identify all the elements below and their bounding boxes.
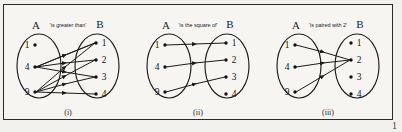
mapping-arrow [296,60,350,92]
set-a-label: A [32,19,40,31]
mapping-arrow [166,60,225,67]
b-element-label: 4 [102,89,107,99]
b-element-label: 1 [357,38,362,48]
b-element-dot [349,41,352,44]
set-a-ellipse [147,34,191,98]
b-element-label: 2 [102,55,107,65]
a-element-dot [33,43,36,46]
a-element-label: 9 [155,87,160,97]
b-element-label: 2 [357,55,362,65]
b-element-label: 4 [357,89,362,99]
mapping-arrow [296,45,350,60]
relation-diagram-iii: A B 'is paired with 2' 1 4 9 1 2 3 4 [263,4,393,120]
a-element-label: 1 [285,40,290,50]
panel-caption: (i) [64,108,72,117]
mapping-arrow [36,43,95,92]
relation-label: 'is the square of' [179,22,218,28]
b-element-dot [349,75,352,78]
a-element-label: 9 [285,87,290,97]
set-a-label: A [162,19,170,31]
a-element-label: 9 [25,87,30,97]
mapping-arrow [166,43,225,45]
relation-label: 'is greater than' [50,22,87,28]
set-a-label: A [292,19,300,31]
mapping-arrow [296,60,350,67]
b-element-label: 3 [102,72,107,82]
relation-diagram-ii: A B 'is the square of' 1 4 9 1 2 3 4 [133,4,263,120]
b-element-dot [224,92,227,95]
a-element-label: 1 [155,40,160,50]
set-b-label: B [96,18,103,30]
panel-caption: (iii) [322,108,334,117]
mapping-arrow [166,77,225,92]
b-element-label: 4 [232,89,237,99]
a-element-label: 4 [155,62,160,72]
page-number: 1 [392,120,397,131]
set-a-ellipse [277,34,321,98]
b-element-label: 1 [102,38,107,48]
set-b-label: B [226,18,233,30]
set-b-label: B [356,18,363,30]
a-element-label: 4 [25,62,30,72]
a-element-label: 4 [285,62,290,72]
a-element-label: 1 [25,40,30,50]
relation-diagram-i: A B 'is greater than' 1 4 9 1 2 3 4 [3,4,133,120]
mapping-arrow [36,92,95,94]
b-element-dot [349,92,352,95]
panel-caption: (ii) [193,108,203,117]
b-element-label: 3 [357,72,362,82]
b-element-label: 3 [232,72,237,82]
panel-container: A B 'is greater than' 1 4 9 1 2 3 4 [3,4,393,120]
relation-label: 'is paired with 2' [309,22,347,28]
figure-root: A B 'is greater than' 1 4 9 1 2 3 4 [0,0,402,132]
b-element-label: 2 [232,55,237,65]
b-element-label: 1 [232,38,237,48]
